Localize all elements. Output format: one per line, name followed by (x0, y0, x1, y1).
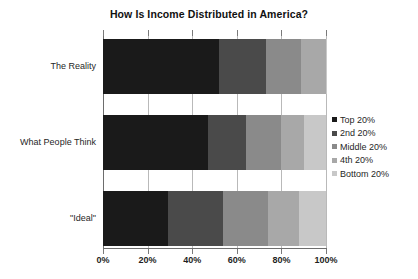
bar-segment[interactable] (304, 115, 326, 170)
x-axis-tick (281, 249, 282, 254)
x-axis-tick-label: 0% (83, 255, 123, 265)
legend-swatch-icon (332, 144, 337, 149)
x-axis-tick-label: 100% (306, 255, 346, 265)
legend-item[interactable]: Middle 20% (332, 140, 389, 154)
legend-item[interactable]: Top 20% (332, 113, 389, 127)
legend-item[interactable]: 2nd 20% (332, 127, 389, 141)
gridline (326, 36, 327, 248)
legend-label: Bottom 20% (340, 169, 389, 179)
bar-segment[interactable] (103, 115, 208, 170)
legend-swatch-icon (332, 131, 337, 136)
x-axis-tick (148, 249, 149, 254)
x-axis-line (103, 248, 327, 249)
legend-label: Middle 20% (340, 142, 387, 152)
chart-title: How Is Income Distributed in America? (0, 8, 418, 20)
x-axis-tick-label: 60% (217, 255, 257, 265)
category-label: "Ideal" (0, 213, 96, 223)
bar-segment[interactable] (301, 39, 325, 94)
x-axis-tick (103, 249, 104, 254)
bar-segment[interactable] (246, 115, 282, 170)
legend-item[interactable]: Bottom 20% (332, 167, 389, 181)
bar-segment[interactable] (268, 191, 299, 246)
bar-segment[interactable] (208, 115, 246, 170)
x-axis-tick (326, 249, 327, 254)
legend-label: 4th 20% (340, 155, 373, 165)
x-axis-tick (192, 249, 193, 254)
bar-row[interactable] (103, 39, 326, 94)
plot-area (103, 36, 326, 248)
x-axis-tick (237, 249, 238, 254)
bar-segment[interactable] (168, 191, 224, 246)
legend-swatch-icon (332, 117, 337, 122)
bar-segment[interactable] (266, 39, 302, 94)
bar-segment[interactable] (103, 39, 219, 94)
bar-row[interactable] (103, 191, 326, 246)
bar-row[interactable] (103, 115, 326, 170)
x-axis-tick-label: 20% (128, 255, 168, 265)
legend-swatch-icon (332, 171, 337, 176)
bar-segment[interactable] (299, 191, 326, 246)
legend-item[interactable]: 4th 20% (332, 154, 389, 168)
bar-segment[interactable] (223, 191, 268, 246)
legend-label: Top 20% (340, 115, 375, 125)
x-axis-tick-label: 40% (172, 255, 212, 265)
category-label: What People Think (0, 137, 96, 147)
bar-segment[interactable] (219, 39, 266, 94)
income-distribution-chart: How Is Income Distributed in America? 0%… (0, 0, 418, 279)
legend-label: 2nd 20% (340, 128, 376, 138)
chart-legend: Top 20%2nd 20%Middle 20%4th 20%Bottom 20… (332, 113, 389, 181)
bar-segment[interactable] (281, 115, 303, 170)
legend-swatch-icon (332, 158, 337, 163)
bar-segment[interactable] (103, 191, 168, 246)
category-label: The Reality (0, 61, 96, 71)
x-axis-tick-label: 80% (261, 255, 301, 265)
